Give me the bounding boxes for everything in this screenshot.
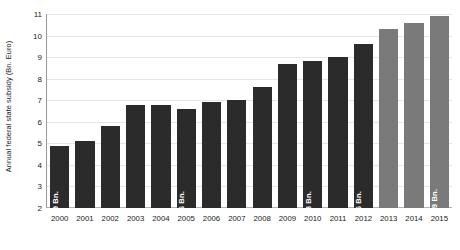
bar[interactable] <box>404 23 423 208</box>
bar[interactable] <box>202 102 221 208</box>
bar[interactable] <box>303 61 322 208</box>
bar-group[interactable]: 6.6 Bn.2005 <box>177 109 196 208</box>
bar-group[interactable]: 9.6 Bn.2012 <box>354 44 373 208</box>
y-axis-title: Annual federal state subsidy (Bn. Euro) <box>0 0 18 212</box>
bar-group[interactable]: 2014 <box>404 23 423 208</box>
bars: 4.9 Bn.200020012002200320046.6 Bn.200520… <box>47 14 452 208</box>
y-tick-label: 7 <box>38 96 42 105</box>
bar[interactable] <box>75 141 94 208</box>
bar-group[interactable]: 10.9 Bn.2015 <box>430 16 449 208</box>
y-tick-label: 9 <box>38 53 42 62</box>
bar-group[interactable]: 2013 <box>379 29 398 208</box>
x-tick-label: 2002 <box>102 214 119 223</box>
bar[interactable] <box>126 105 145 208</box>
bar[interactable] <box>151 105 170 208</box>
bar-group[interactable]: 2003 <box>126 105 145 208</box>
y-tick-label: 2 <box>38 204 42 213</box>
bar[interactable] <box>379 29 398 208</box>
x-tick-label: 2010 <box>304 214 321 223</box>
x-tick-label: 2005 <box>178 214 195 223</box>
y-tick-label: 3 <box>38 182 42 191</box>
bar[interactable] <box>328 57 347 208</box>
x-tick-label: 2009 <box>279 214 296 223</box>
x-tick-label: 2011 <box>330 214 347 223</box>
y-axis-title-text: Annual federal state subsidy (Bn. Euro) <box>5 40 14 171</box>
bar-chart: Annual federal state subsidy (Bn. Euro) … <box>0 0 460 250</box>
x-tick-label: 2015 <box>431 214 448 223</box>
x-tick-label: 2006 <box>203 214 220 223</box>
bar-group[interactable]: 4.9 Bn.2000 <box>50 146 69 209</box>
bar-group[interactable]: 2009 <box>278 64 297 208</box>
x-tick-label: 2007 <box>228 214 245 223</box>
y-tick-label: 11 <box>34 10 42 19</box>
bar-group[interactable]: 2002 <box>101 126 120 208</box>
bar[interactable] <box>278 64 297 208</box>
bar[interactable] <box>430 16 449 208</box>
x-tick-label: 2003 <box>127 214 144 223</box>
bar[interactable] <box>253 87 272 208</box>
y-tick-label: 10 <box>33 31 42 40</box>
bar-group[interactable]: 8.8 Bn.2010 <box>303 61 322 208</box>
x-tick-label: 2012 <box>355 214 372 223</box>
x-tick-label: 2008 <box>253 214 270 223</box>
bar[interactable] <box>101 126 120 208</box>
bar-group[interactable]: 2008 <box>253 87 272 208</box>
x-tick-label: 2001 <box>76 214 93 223</box>
x-tick-label: 2014 <box>405 214 422 223</box>
bar-group[interactable]: 2001 <box>75 141 94 208</box>
x-tick-label: 2000 <box>51 214 68 223</box>
bar-group[interactable]: 2011 <box>328 57 347 208</box>
y-tick-label: 6 <box>38 117 42 126</box>
bar-group[interactable]: 2006 <box>202 102 221 208</box>
x-tick-label: 2004 <box>152 214 169 223</box>
y-tick-label: 5 <box>38 139 42 148</box>
x-tick-label: 2013 <box>380 214 397 223</box>
bar[interactable] <box>354 44 373 208</box>
y-tick-label: 4 <box>38 160 42 169</box>
bar-group[interactable]: 2004 <box>151 105 170 208</box>
bar-group[interactable]: 2007 <box>227 100 246 208</box>
plot-area: 234567891011 4.9 Bn.20002001200220032004… <box>47 14 452 208</box>
y-tick-label: 8 <box>38 74 42 83</box>
bar[interactable] <box>227 100 246 208</box>
